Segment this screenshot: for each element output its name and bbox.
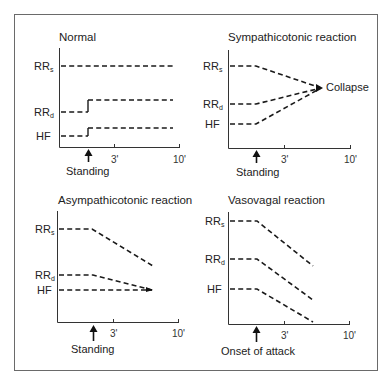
label-rrd: RRd [203,98,223,111]
label-rrd: RRd [34,106,54,119]
label-hf: HF [36,130,51,142]
panel-title: Asympathicotonic reaction [58,194,192,206]
label-rrs: RRs [205,215,225,228]
arrow-up-icon [90,325,98,341]
event-label: Standing [71,343,114,355]
arrow-up-icon [253,150,261,163]
tick-label-10: 10' [344,154,357,165]
line-rrs [59,229,153,266]
collapse-annotation: Collapse [326,81,369,93]
label-rrs: RRs [35,223,55,236]
tick-label-3: 3' [281,154,289,165]
figure-frame [15,15,378,371]
label-rrd: RRd [205,253,225,266]
convergence-arrowhead-icon [316,84,323,92]
line-rrs [230,66,321,88]
panel-title: Vasovagal reaction [228,194,325,206]
panel-vasovagal: Vasovagal reaction 3' 10' RRs RRd HF Ons… [205,194,356,357]
panel-title: Normal [59,31,96,43]
line-hf [230,88,321,124]
panel-asympathicotonic: Asympathicotonic reaction 3' 10' RRs RRd… [35,194,192,355]
line-hf [230,289,313,322]
tick-label-10: 10' [343,330,356,341]
tick-label-3: 3' [111,154,119,165]
arrow-up-icon [85,149,93,162]
panel-normal: Normal 3' 10' RRs RRd HF Standing [34,31,186,177]
label-hf: HF [207,283,222,295]
line-rrd [59,275,152,290]
event-label: Standing [66,165,109,177]
label-hf: HF [205,118,220,130]
tick-label-3: 3' [281,330,289,341]
orthostatic-reactions-diagram: Normal 3' 10' RRs RRd HF Standing Sympat… [0,0,390,386]
tick-label-10: 10' [172,328,185,339]
panel-title: Sympathicotonic reaction [228,31,356,43]
tick-label-3: 3' [110,328,118,339]
arrow-up-icon [253,326,261,342]
line-rrd [230,259,313,300]
event-label: Standing [236,166,279,178]
tick-label-10: 10' [173,154,186,165]
label-rrs: RRs [203,60,223,73]
event-label: Onset of attack [221,345,295,357]
label-rrd: RRd [35,269,55,282]
label-hf: HF [37,284,52,296]
label-rrs: RRs [34,60,54,73]
panel-sympathicotonic: Sympathicotonic reaction 3' 10' RRs RRd … [203,31,369,178]
